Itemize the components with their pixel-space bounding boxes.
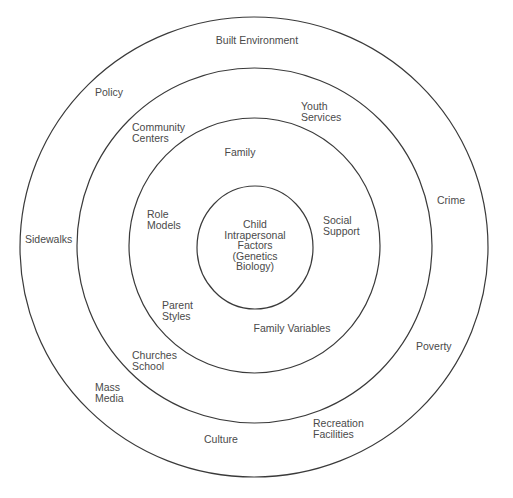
label-family-variables: Family Variables [242,323,342,334]
label-crime: Crime [437,195,465,206]
label-recreation-facilities: Recreation Facilities [313,418,364,439]
label-youth-services: Youth Services [301,101,341,122]
label-churches-school: Churches School [132,350,177,371]
label-poverty: Poverty [416,341,452,352]
label-child-intrapersonal-factors: Child Intrapersonal Factors (Genetics Bi… [205,219,305,272]
label-role-models: Role Models [147,209,181,230]
label-built-environment: Built Environment [197,35,317,46]
label-social-support: Social Support [323,215,360,236]
label-parent-styles: Parent Styles [162,300,193,321]
label-culture: Culture [204,434,238,445]
label-community-centers: Community Centers [132,122,185,143]
label-mass-media: Mass Media [95,382,124,403]
label-sidewalks: Sidewalks [25,234,72,245]
label-policy: Policy [95,87,123,98]
label-family: Family [210,147,270,158]
